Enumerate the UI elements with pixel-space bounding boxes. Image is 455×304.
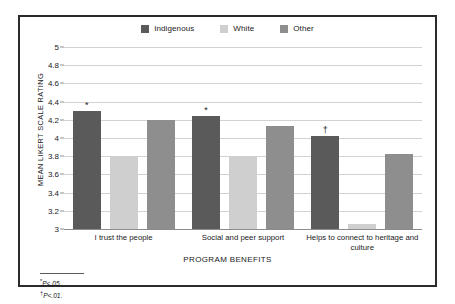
bar-white-0[interactable] bbox=[110, 156, 138, 229]
legend-label-other: Other bbox=[293, 24, 314, 33]
bar-other-1[interactable] bbox=[266, 126, 294, 229]
y-tick-label: 3.8 bbox=[48, 152, 59, 161]
bar-fill bbox=[73, 111, 101, 229]
figure-frame: Indigenous White Other MEAN LIKERT SCALE… bbox=[18, 15, 437, 287]
footnote-rule bbox=[40, 273, 84, 274]
footnotes: *P<.05 †P<.01. bbox=[40, 273, 84, 300]
x-category-label: I trust the people bbox=[64, 233, 183, 253]
bar-fill bbox=[110, 156, 138, 229]
y-tick-label: 4.4 bbox=[48, 97, 59, 106]
legend-label-white: White bbox=[233, 24, 254, 33]
y-tick-label: 3.6 bbox=[48, 170, 59, 179]
plot-canvas: 54.84.64.44.243.83.63.43.23 **† bbox=[64, 47, 422, 230]
y-tick-label: 4.6 bbox=[48, 79, 59, 88]
bar-other-0[interactable] bbox=[147, 120, 175, 229]
bar-fill bbox=[229, 156, 257, 229]
legend-swatch-other bbox=[280, 25, 288, 33]
y-tick-label: 4 bbox=[55, 134, 59, 143]
bar-indigenous-0[interactable]: * bbox=[73, 111, 101, 229]
y-tick-label: 4.2 bbox=[48, 115, 59, 124]
footnote-2-text: P<.01. bbox=[43, 292, 62, 299]
significance-marker: * bbox=[73, 101, 101, 110]
significance-marker: † bbox=[311, 126, 339, 135]
bar-other-2[interactable] bbox=[385, 154, 413, 229]
bar-fill bbox=[385, 154, 413, 229]
bar-white-1[interactable] bbox=[229, 156, 257, 229]
bar-fill bbox=[311, 136, 339, 229]
legend-item-white: White bbox=[220, 24, 254, 33]
legend-item-other: Other bbox=[280, 24, 314, 33]
x-category-label: Helps to connect to heritage and culture bbox=[303, 233, 422, 253]
y-tick-label: 3.4 bbox=[48, 188, 59, 197]
chart-legend: Indigenous White Other bbox=[20, 24, 435, 33]
footnote-1: *P<.05 bbox=[40, 277, 84, 289]
bar-fill bbox=[147, 120, 175, 229]
footnote-1-text: P<.05 bbox=[42, 280, 59, 287]
x-axis-title: PROGRAM BENEFITS bbox=[20, 255, 435, 264]
bar-group: † bbox=[303, 47, 422, 229]
y-tick-label: 5 bbox=[55, 43, 59, 52]
legend-label-indigenous: Indigenous bbox=[154, 24, 194, 33]
y-tick-label: 4.8 bbox=[48, 61, 59, 70]
bar-indigenous-1[interactable]: * bbox=[192, 116, 220, 229]
legend-swatch-indigenous bbox=[141, 25, 149, 33]
y-tick-label: 3.2 bbox=[48, 206, 59, 215]
y-tick-label: 3 bbox=[55, 225, 59, 234]
bar-white-2[interactable] bbox=[348, 224, 376, 229]
plot-area: 54.84.64.44.243.83.63.43.23 **† bbox=[64, 47, 422, 230]
bar-indigenous-2[interactable]: † bbox=[311, 136, 339, 229]
x-category-label: Social and peer support bbox=[183, 233, 302, 253]
bar-group: * bbox=[64, 47, 183, 229]
y-axis-title: MEAN LIKERT SCALE RATING bbox=[36, 55, 45, 205]
bar-fill bbox=[266, 126, 294, 229]
significance-marker: * bbox=[192, 106, 220, 115]
gridline bbox=[64, 229, 422, 230]
x-axis-category-labels: I trust the peopleSocial and peer suppor… bbox=[64, 233, 422, 253]
footnote-2: †P<.01. bbox=[40, 289, 84, 301]
bar-fill bbox=[348, 224, 376, 229]
bar-fill bbox=[192, 116, 220, 229]
legend-swatch-white bbox=[220, 25, 228, 33]
bar-groups: **† bbox=[64, 47, 422, 229]
bar-group: * bbox=[183, 47, 302, 229]
legend-item-indigenous: Indigenous bbox=[141, 24, 194, 33]
